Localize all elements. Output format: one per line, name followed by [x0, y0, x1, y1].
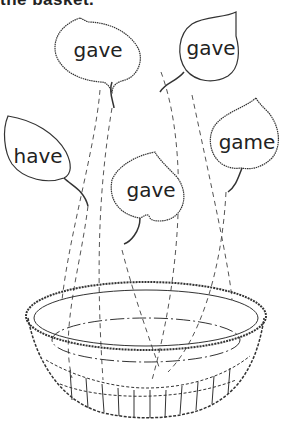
leaf-3-word: have [6, 146, 70, 166]
leaf-gave-1[interactable] [55, 18, 140, 108]
guide-line-leaf-3 [68, 206, 88, 378]
guide-line-leaf-1 [99, 108, 112, 380]
leaf-5-word: game [214, 132, 280, 152]
dashed-guide-lines [62, 72, 232, 380]
leaf-2-word: gave [180, 38, 242, 58]
leaf-4-word: gave [116, 180, 186, 200]
basket[interactable] [26, 282, 266, 418]
guide-line-leaf-2 [152, 72, 178, 380]
scene [0, 0, 294, 426]
guide-line-leaf-4 [122, 250, 160, 370]
leaf-1-word: gave [62, 40, 134, 60]
